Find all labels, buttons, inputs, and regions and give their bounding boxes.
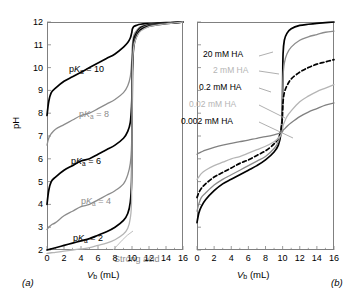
x-axis-unit-b: (mL) bbox=[247, 269, 269, 280]
annotation-value: = 6 bbox=[86, 156, 101, 166]
curve-annotation-a-1: pKa = 8 bbox=[79, 109, 109, 122]
leader-line-3 bbox=[259, 105, 285, 118]
concentration-label-2: 0.2 mM HA bbox=[199, 83, 242, 92]
x-tick-label: 10 bbox=[127, 254, 137, 263]
concentration-label-3: 0.02 mM HA bbox=[189, 100, 236, 109]
curve-pka-6 bbox=[47, 22, 183, 204]
y-tick-label: 10 bbox=[33, 63, 43, 72]
x-tick-label: 14 bbox=[161, 254, 171, 263]
curve-annotation-a-2: pKa = 6 bbox=[71, 156, 101, 169]
y-tick-label: 4 bbox=[38, 200, 43, 209]
y-axis-title: pH bbox=[11, 103, 21, 143]
curve-0-2-mm-ha bbox=[197, 60, 334, 198]
y-tick-label: 11 bbox=[34, 40, 43, 49]
curve-pka-2 bbox=[47, 22, 183, 250]
x-tick-label: 10 bbox=[278, 254, 288, 263]
x-tick-label: 12 bbox=[144, 254, 154, 263]
concentration-text: 20 mM HA bbox=[203, 49, 243, 59]
curve-annotation-a-3: pKa = 4 bbox=[81, 196, 111, 209]
leader-line-0 bbox=[259, 52, 273, 56]
annotation-value: = 2 bbox=[88, 233, 103, 243]
leader-line-1 bbox=[259, 71, 279, 74]
leader-line-2 bbox=[259, 88, 271, 92]
panel-b-x-axis-title: Vb (mL) bbox=[237, 270, 269, 282]
panel-a-x-axis-title: Vb (mL) bbox=[87, 270, 119, 282]
x-tick-label: 2 bbox=[212, 254, 217, 263]
y-axis-tick-labels: 23456789101112 bbox=[18, 22, 43, 250]
y-tick-label: 7 bbox=[38, 132, 43, 141]
curve-annotation-a-0: pKa = 10 bbox=[69, 64, 104, 77]
y-tick-label: 6 bbox=[38, 154, 43, 163]
x-tick-label: 12 bbox=[295, 254, 305, 263]
y-tick-label: 5 bbox=[38, 177, 43, 186]
x-tick-label: 16 bbox=[329, 254, 339, 263]
x-tick-label: 8 bbox=[263, 254, 268, 263]
x-axis-unit-a: (mL) bbox=[97, 269, 119, 280]
curve-annotation-a-4: pKa = 2 bbox=[73, 233, 103, 246]
concentration-label-0: 20 mM HA bbox=[203, 50, 243, 59]
annotation-value: = 10 bbox=[84, 64, 104, 74]
concentration-text: 0.2 mM HA bbox=[199, 82, 242, 92]
x-tick-label: 4 bbox=[229, 254, 234, 263]
leader-line-4 bbox=[259, 122, 293, 138]
x-tick-label: 0 bbox=[194, 254, 199, 263]
annotation-value: = 4 bbox=[96, 196, 111, 206]
panel-b-plot-area: 20 mM HA2 mM HA0.2 mM HA0.02 mM HA0.002 … bbox=[197, 22, 334, 250]
concentration-label-4: 0.002 mM HA bbox=[181, 117, 233, 126]
concentration-text: 2 mM HA bbox=[213, 65, 248, 75]
curve-strong-acid bbox=[47, 22, 183, 253]
x-tick-label: 6 bbox=[246, 254, 251, 263]
panel-a-x-tick-labels: 0246810121416 bbox=[47, 254, 183, 266]
y-tick-label: 9 bbox=[38, 86, 43, 95]
panel-a-tag: (a) bbox=[22, 277, 34, 288]
x-tick-label: 8 bbox=[112, 254, 117, 263]
y-tick-label: 2 bbox=[38, 246, 43, 255]
x-tick-label: 6 bbox=[95, 254, 100, 263]
panel-b-tag: (b) bbox=[331, 277, 343, 288]
y-tick-label: 8 bbox=[38, 109, 43, 118]
x-tick-label: 2 bbox=[61, 254, 66, 263]
curve-pka-10 bbox=[47, 22, 183, 115]
panel-b-x-tick-labels: 0246810121416 bbox=[197, 254, 334, 266]
concentration-text: 0.002 mM HA bbox=[181, 116, 233, 126]
y-tick-label: 3 bbox=[38, 223, 43, 232]
concentration-text: 0.02 mM HA bbox=[189, 99, 236, 109]
x-tick-label: 4 bbox=[78, 254, 83, 263]
titration-figure: 23456789101112 pH pKa = 10pKa = 8pKa = 6… bbox=[0, 0, 357, 299]
y-tick-label: 12 bbox=[33, 18, 43, 27]
panel-a-curves bbox=[47, 22, 183, 250]
concentration-label-1: 2 mM HA bbox=[213, 66, 248, 75]
annotation-value: = 8 bbox=[94, 109, 109, 119]
x-tick-label: 16 bbox=[178, 254, 188, 263]
x-tick-label: 0 bbox=[44, 254, 49, 263]
panel-a-plot-area: pKa = 10pKa = 8pKa = 6pKa = 4pKa = 2Stro… bbox=[47, 22, 183, 250]
x-tick-label: 14 bbox=[312, 254, 322, 263]
curve-pka-8 bbox=[47, 22, 183, 145]
